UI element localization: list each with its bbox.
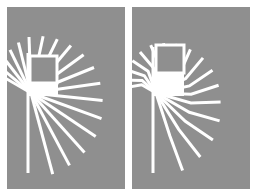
- square-box: [30, 56, 57, 83]
- hub-block: [28, 84, 58, 96]
- hub-block: [153, 74, 184, 96]
- square-box: [156, 45, 184, 73]
- ray-figure: [7, 7, 125, 189]
- panel-right: [132, 7, 250, 189]
- panel-left: [7, 7, 125, 189]
- ray-figure: [132, 7, 250, 189]
